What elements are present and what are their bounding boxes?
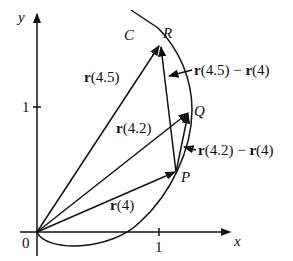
label-r42: r(4.2) (116, 120, 151, 137)
label-r45: r(4.5) (84, 69, 119, 86)
origin-label: 0 (22, 235, 30, 251)
point-label-p: P (180, 169, 190, 185)
y-tick-label: 1 (22, 99, 30, 115)
y-axis-label: y (16, 9, 25, 25)
vector-diff45 (161, 47, 176, 172)
vector-r42 (37, 113, 188, 232)
leader-diff45 (169, 70, 192, 76)
x-tick-label: 1 (155, 239, 163, 255)
point-label-r: R (162, 25, 172, 41)
point-label-q: Q (194, 103, 205, 119)
label-r4: r(4) (110, 197, 134, 214)
curve-label-c: C (124, 27, 135, 43)
x-axis-label: x (233, 233, 241, 249)
label-diff45: r(4.5) − r(4) (194, 62, 270, 79)
vector-r4 (37, 172, 175, 232)
vector-diff42 (176, 114, 188, 172)
secant-vector-diagram: y x 0 1 1 C R Q P r(4.5) r(4.2) r(4) r(4… (0, 0, 293, 261)
label-diff42: r(4.2) − r(4) (198, 142, 274, 159)
